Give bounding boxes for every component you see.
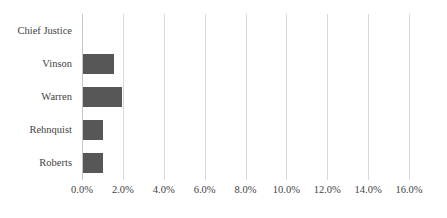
gridline-20 — [123, 14, 124, 180]
x-tick-120: 12.0% — [314, 183, 341, 196]
x-tick-00: 0.0% — [71, 183, 93, 196]
y-axis-category-labels: Chief Justice Vinson Warren Rehnquist Ro… — [0, 14, 76, 180]
y-axis-label-rehnquist: Rehnquist — [0, 124, 72, 136]
y-axis-label-warren: Warren — [0, 91, 72, 103]
gridline-40 — [164, 14, 165, 180]
x-tick-160: 16.0% — [395, 183, 422, 196]
gridline-140 — [368, 14, 369, 180]
bar-warren[interactable] — [83, 87, 122, 107]
y-axis-label-chief-justice: Chief Justice — [0, 25, 72, 37]
x-tick-40: 4.0% — [153, 183, 175, 196]
x-tick-80: 8.0% — [235, 183, 257, 196]
x-tick-20: 2.0% — [112, 183, 134, 196]
bar-rehnquist[interactable] — [83, 120, 103, 140]
x-tick-100: 10.0% — [273, 183, 300, 196]
gridline-80 — [246, 14, 247, 180]
gridline-100 — [286, 14, 287, 180]
x-axis-tick-labels: 0.0%2.0%4.0%6.0%8.0%10.0%12.0%14.0%16.0% — [82, 183, 409, 203]
bar-roberts[interactable] — [83, 153, 103, 173]
bar-vinson[interactable] — [83, 54, 114, 74]
gridline-60 — [205, 14, 206, 180]
y-axis-label-roberts: Roberts — [0, 157, 72, 169]
plot-area — [82, 14, 409, 180]
gridline-160 — [409, 14, 410, 180]
x-tick-60: 6.0% — [194, 183, 216, 196]
y-axis-label-vinson: Vinson — [0, 58, 72, 70]
gridline-120 — [327, 14, 328, 180]
x-tick-140: 14.0% — [355, 183, 382, 196]
horizontal-bar-chart: Chief Justice Vinson Warren Rehnquist Ro… — [0, 0, 447, 218]
